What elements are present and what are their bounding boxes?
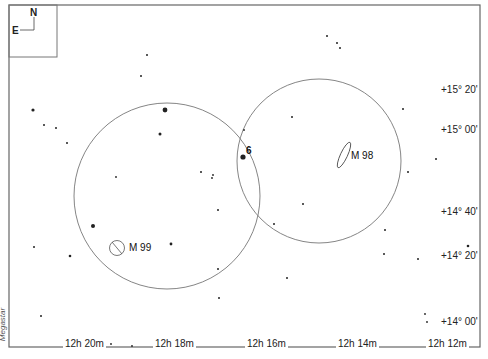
ra-label: 12h 12m xyxy=(426,338,469,350)
ra-label: 12h 16m xyxy=(245,338,288,350)
dec-label: +14° 00' xyxy=(440,316,442,328)
compass-north-label: N xyxy=(30,7,37,18)
ra-label: 12h 20m xyxy=(63,338,106,350)
stars xyxy=(31,35,469,347)
credit-label: Megastar xyxy=(0,308,7,341)
star-chart xyxy=(0,0,488,359)
dec-label: +14° 40' xyxy=(440,206,442,218)
ra-label: 12h 14m xyxy=(336,338,379,350)
fov-circle-m99 xyxy=(74,103,260,289)
galaxy-m99-icon xyxy=(110,241,125,256)
chart-frame xyxy=(9,5,480,347)
compass-east-label: E xyxy=(12,25,19,36)
ra-label: 12h 18m xyxy=(153,338,196,350)
compass-arrows xyxy=(20,17,34,30)
dec-label: +15° 20' xyxy=(440,84,442,96)
dec-label: +15° 00' xyxy=(440,124,442,136)
star-label-6: 6 xyxy=(246,145,252,156)
fov-circle-m98 xyxy=(237,79,401,243)
object-label-m99: M 99 xyxy=(129,242,151,253)
object-label-m98: M 98 xyxy=(351,150,373,161)
dec-label: +14° 20' xyxy=(440,250,442,262)
